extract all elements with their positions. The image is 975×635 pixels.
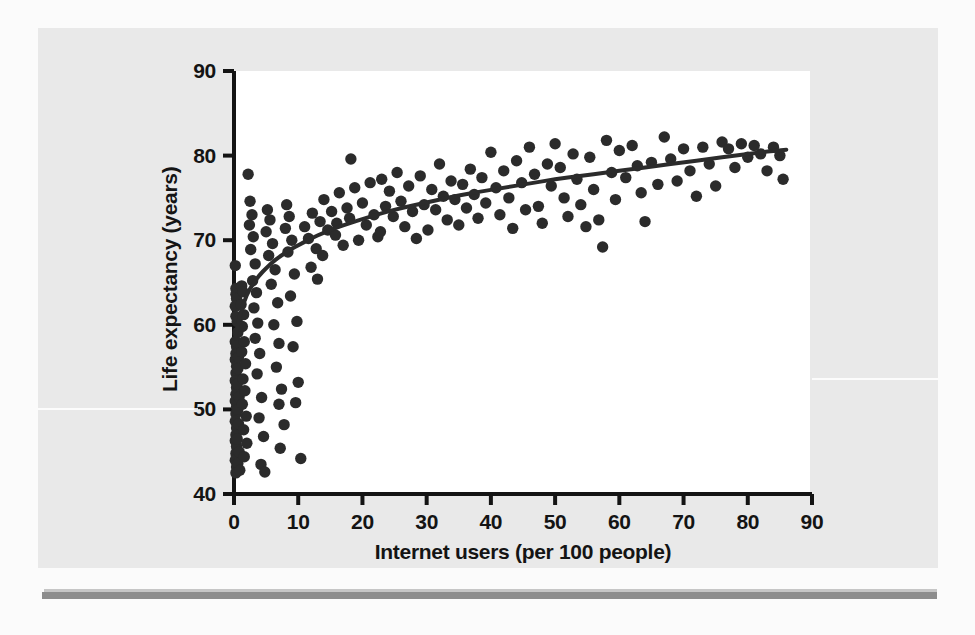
y-tick-label: 40 (158, 482, 216, 506)
figure-container: 0102030405060708090405060708090 Internet… (0, 0, 975, 635)
x-tick-label: 60 (608, 510, 631, 534)
x-axis-title: Internet users (per 100 people) (234, 540, 812, 564)
x-tick-label: 40 (479, 510, 502, 534)
y-tick-label: 90 (158, 59, 216, 83)
scan-artifact-left (38, 408, 198, 410)
x-tick-label: 70 (672, 510, 695, 534)
plot-area (234, 71, 810, 495)
bottom-rule (42, 592, 937, 599)
x-tick-label: 90 (801, 510, 824, 534)
x-tick-label: 50 (544, 510, 567, 534)
x-tick-label: 30 (415, 510, 438, 534)
x-tick-label: 20 (351, 510, 374, 534)
y-tick-label: 80 (158, 144, 216, 168)
x-tick-label: 0 (228, 510, 239, 534)
y-axis-title: Life expectancy (years) (158, 167, 182, 392)
scan-artifact-right (812, 378, 938, 380)
x-tick-label: 80 (736, 510, 759, 534)
x-tick-label: 10 (287, 510, 310, 534)
